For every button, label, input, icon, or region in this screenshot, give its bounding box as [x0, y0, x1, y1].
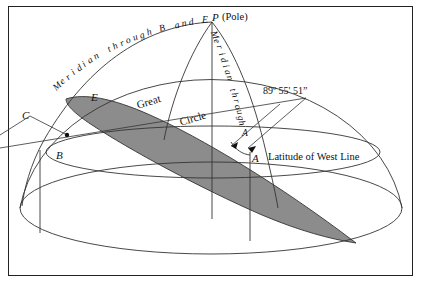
label-meridian-through-a-char	[226, 81, 236, 86]
figure-page: P (Pole) 89º 55' 51” A Latitude of West …	[0, 0, 423, 284]
label-meridian-through-a-char: r	[214, 44, 225, 51]
label-meridian-through-a-char: i	[216, 51, 226, 57]
label-meridian-through-a: Meridian through A	[0, 0, 423, 284]
label-meridian-through-a-char: i	[221, 63, 231, 69]
label-meridian-through-a-char: d	[218, 56, 229, 64]
label-meridian-through-a-char: A	[242, 128, 248, 138]
